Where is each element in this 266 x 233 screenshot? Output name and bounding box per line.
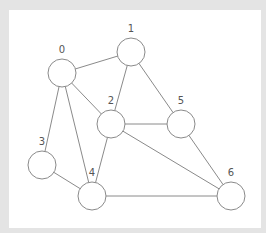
node-label-6: 6	[228, 167, 234, 178]
node-label-4: 4	[89, 167, 95, 178]
edge-2-6	[111, 124, 231, 196]
diagram-frame: 0123456	[0, 0, 266, 233]
node-label-3: 3	[39, 136, 45, 147]
node-0	[48, 59, 76, 87]
node-2	[97, 110, 125, 138]
node-5	[167, 110, 195, 138]
node-label-2: 2	[108, 95, 114, 106]
node-label-1: 1	[128, 23, 134, 34]
node-3	[28, 151, 56, 179]
node-label-5: 5	[178, 95, 184, 106]
edge-0-4	[62, 73, 92, 196]
graph-canvas: 0123456	[0, 0, 266, 233]
node-4	[78, 182, 106, 210]
node-label-0: 0	[59, 44, 65, 55]
node-1	[117, 38, 145, 66]
node-6	[217, 182, 245, 210]
